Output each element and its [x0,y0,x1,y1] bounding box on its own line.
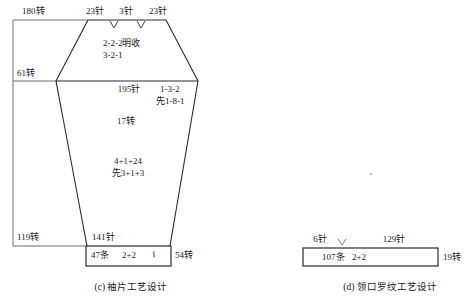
sleeve-rib-count-label: 47条 [91,250,109,261]
sleeve-top-left-needles-label: 23针 [86,6,104,17]
sleeve-bottom-needles-label: 141针 [92,232,115,243]
sleeve-taper-line1: 4+1+24 [114,156,142,167]
sleeve-left-outer-top-label: 180转 [22,6,45,17]
sleeve-right-note-line1: 1-3-2 [160,84,180,95]
chevron-down-icon [110,21,118,28]
sleeve-left-outer-mid-label: 61转 [17,68,35,79]
sleeve-figure-caption: (c) 袖片工艺设计 [95,281,168,293]
diagram-root: 180转 61转 119转 23针 3针 23针 2-2-2明收 3-2-1 1… [0,0,471,302]
collar-rib-count-label: 107条 [322,252,345,263]
sleeve-cap-shaping-line2: 3-2-1 [103,50,123,61]
sleeve-left-outer-bottom-label: 119转 [17,232,39,243]
scan-speck [370,173,372,175]
sleeve-top-center-needles-label: 3针 [119,6,133,17]
sleeve-outer-reference-box [13,20,88,246]
sleeve-outline [56,20,198,246]
sleeve-rib-symbol: ∽ [149,250,160,258]
collar-rib-ratio-label: 2+2 [352,252,366,263]
sleeve-right-note-line2: 先1-8-1 [156,96,185,107]
sleeve-cap-shaping-line1: 2-2-2明收 [103,38,141,49]
sleeve-body-rows-label: 17转 [117,116,135,127]
chevron-down-icon [338,239,346,245]
chevron-down-icon [137,21,145,28]
schematic-canvas [0,0,471,302]
collar-right-needles-label: 129针 [383,234,406,245]
collar-figure-caption: (d) 领口罗纹工艺设计 [343,281,436,293]
sleeve-top-right-needles-label: 23针 [149,6,167,17]
collar-arrow-marker [338,239,346,245]
sleeve-top-arrow-markers [110,21,145,28]
sleeve-rib-ratio-label: 2+2 [122,250,136,261]
sleeve-body-top-needles-label: 195针 [118,84,141,95]
sleeve-right-bottom-rows-label: 54转 [175,250,193,261]
collar-rows-label: 19转 [443,252,461,263]
sleeve-taper-line2: 先3+1+3 [112,168,145,179]
collar-left-needles-label: 6针 [313,234,327,245]
